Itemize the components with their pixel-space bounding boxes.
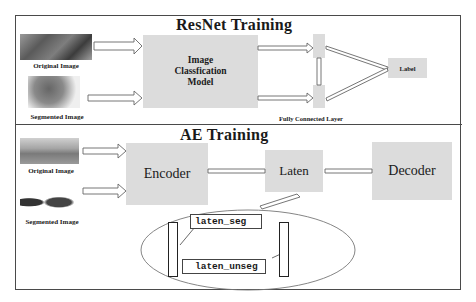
arrow-ae-segmented-to-encoder bbox=[83, 184, 126, 198]
latent-seg-label: laten_seg bbox=[190, 214, 262, 229]
arrow-model-to-fc-top bbox=[258, 43, 313, 53]
connector-latent-to-decoder bbox=[325, 169, 372, 173]
arrow-model-to-fc-bottom bbox=[258, 93, 313, 103]
connector-fc-bottom-to-label bbox=[326, 68, 388, 101]
connectors-layer bbox=[0, 0, 476, 302]
connector-latent-to-detail bbox=[260, 194, 300, 209]
latent-unseg-label: laten_unseg bbox=[182, 259, 266, 274]
arrow-ae-original-to-encoder bbox=[83, 144, 126, 158]
latent-seg-vector-bar bbox=[168, 222, 178, 277]
connector-encoder-to-latent bbox=[208, 169, 265, 173]
fc-vertical-connector bbox=[317, 58, 321, 85]
latent-unseg-vector-bar bbox=[279, 222, 289, 277]
arrow-original-to-model bbox=[94, 38, 142, 54]
connector-fc-top-to-label bbox=[326, 46, 388, 70]
leader-latent-seg bbox=[180, 227, 195, 245]
arrows bbox=[83, 38, 388, 209]
arrow-segmented-to-model bbox=[88, 91, 142, 105]
